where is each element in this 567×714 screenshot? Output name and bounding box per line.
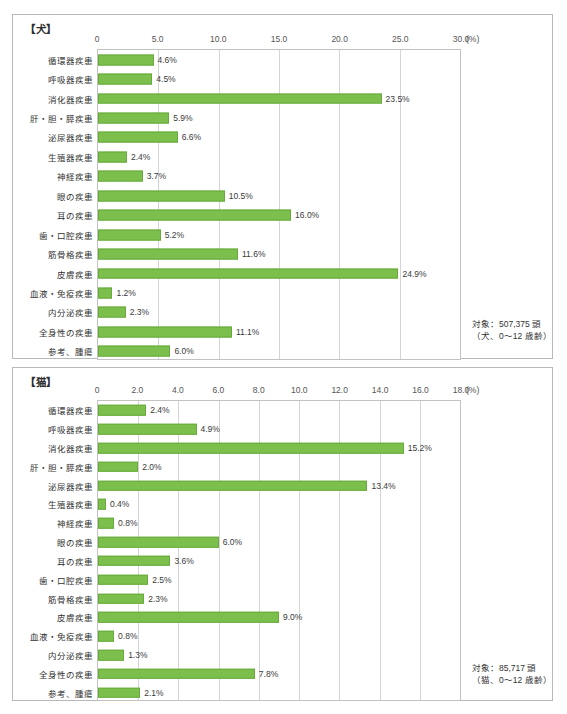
dog-bar-row: 肝・胆・膵疾患5.9%	[98, 108, 460, 127]
cat-bar-row: 皮膚疾患9.0%	[98, 608, 460, 627]
dog-bar-row: 呼吸器疾患4.5%	[98, 69, 460, 88]
dog-xtick-2: 10.0	[210, 34, 227, 44]
dog-bar-value-11: 24.9%	[402, 269, 426, 279]
cat-category-label-10: 筋骨格疾患	[48, 593, 93, 605]
dog-bar-8	[98, 210, 291, 221]
cat-bar-4	[98, 480, 367, 491]
dog-category-label-12: 血液・免疫疾患	[30, 287, 93, 299]
dog-xtick-4: 20.0	[331, 34, 348, 44]
dog-bar-14	[98, 326, 232, 337]
dog-bar-13	[98, 307, 126, 318]
dog-bar-value-0: 4.6%	[158, 55, 177, 65]
dog-bar-row: 生殖器疾患2.4%	[98, 147, 460, 166]
dog-category-label-7: 眼の疾患	[57, 190, 93, 202]
dog-xtick-5: 25.0	[392, 34, 409, 44]
cat-bar-6	[98, 518, 114, 529]
dog-bar-11	[98, 268, 398, 279]
cat-category-label-1: 呼吸器疾患	[48, 423, 93, 435]
dog-bar-value-10: 11.6%	[242, 249, 265, 259]
cat-bar-9	[98, 574, 148, 585]
dog-bar-4	[98, 132, 178, 143]
cat-gridline-9	[460, 401, 461, 700]
dog-bar-12	[98, 288, 112, 299]
dog-bar-value-13: 2.3%	[130, 307, 149, 317]
dog-category-label-15: 参考、腫瘍	[48, 345, 93, 357]
cat-bar-value-1: 4.9%	[201, 424, 220, 434]
cat-category-label-9: 歯・口腔疾患	[39, 574, 93, 586]
dog-axis-unit-label: (%)	[466, 34, 479, 44]
cat-bar-15	[98, 687, 140, 698]
dog-bar-1	[98, 74, 152, 85]
dog-bar-row: 参考、腫瘍6.0%	[98, 342, 460, 361]
dog-category-label-4: 泌尿器疾患	[48, 131, 93, 143]
dog-bar-9	[98, 229, 161, 240]
cat-bar-value-10: 2.3%	[148, 594, 167, 604]
cat-xtick-5: 10.0	[291, 385, 308, 395]
cat-bar-8	[98, 556, 170, 567]
cat-bar-row: 眼の疾患6.0%	[98, 533, 460, 552]
cat-xtick-0: 0	[95, 385, 100, 395]
dog-xtick-1: 5.0	[152, 34, 164, 44]
dog-bar-0	[98, 54, 154, 65]
cat-category-label-13: 内分泌疾患	[48, 649, 93, 661]
dog-bar-5	[98, 151, 127, 162]
dog-bar-value-4: 6.6%	[182, 132, 201, 142]
dog-bar-value-9: 5.2%	[165, 230, 184, 240]
dog-bar-row: 眼の疾患10.5%	[98, 186, 460, 205]
dog-category-label-11: 皮膚疾患	[57, 268, 93, 280]
cat-category-label-12: 血液・免疫疾患	[30, 630, 93, 642]
dog-bar-2	[98, 93, 382, 104]
dog-bar-value-12: 1.2%	[116, 288, 135, 298]
cat-category-label-0: 循環器疾患	[48, 404, 93, 416]
cat-bar-value-4: 13.4%	[371, 481, 395, 491]
dog-bar-row: 皮膚疾患24.9%	[98, 264, 460, 283]
cat-bar-row: 消化器疾患15.2%	[98, 439, 460, 458]
cat-category-label-2: 消化器疾患	[48, 442, 93, 454]
dog-sample-note: 対象：507,375 頭 （犬、0～12 歳齢）	[472, 318, 552, 343]
cat-bar-row: 内分泌疾患1.3%	[98, 646, 460, 665]
dog-category-label-1: 呼吸器疾患	[48, 73, 93, 85]
cat-bar-value-6: 0.8%	[118, 518, 137, 528]
dog-bar-value-3: 5.9%	[173, 113, 192, 123]
cat-bar-row: 循環器疾患2.4%	[98, 401, 460, 420]
cat-bar-value-8: 3.6%	[174, 556, 193, 566]
cat-bar-row: 耳の疾患3.6%	[98, 552, 460, 571]
dog-bar-3	[98, 113, 169, 124]
cat-chart-title: 【猫】	[25, 374, 57, 389]
cat-bar-value-12: 0.8%	[118, 631, 137, 641]
dog-bar-value-2: 23.5%	[386, 94, 410, 104]
dog-bar-value-5: 2.4%	[131, 152, 150, 162]
cat-xtick-2: 4.0	[172, 385, 184, 395]
cat-xtick-6: 12.0	[331, 385, 348, 395]
cat-bar-12	[98, 631, 114, 642]
cat-bar-3	[98, 462, 138, 473]
cat-bar-row: 血液・免疫疾患0.8%	[98, 627, 460, 646]
dog-bar-row: 神経疾患3.7%	[98, 167, 460, 186]
dog-bar-row: 血液・免疫疾患1.2%	[98, 283, 460, 302]
dog-chart-panel: 【犬】 05.010.015.020.025.030.0(%) 循環器疾患4.6…	[12, 14, 553, 359]
dog-category-label-3: 肝・胆・膵疾患	[30, 112, 93, 124]
cat-bar-7	[98, 537, 219, 548]
dog-bar-row: 内分泌疾患2.3%	[98, 303, 460, 322]
cat-category-label-3: 肝・胆・膵疾患	[30, 461, 93, 473]
cat-xtick-4: 8.0	[253, 385, 265, 395]
dog-chart-title: 【犬】	[25, 21, 57, 36]
cat-category-label-6: 神経疾患	[57, 517, 93, 529]
cat-bar-value-5: 0.4%	[110, 499, 129, 509]
dog-category-label-10: 筋骨格疾患	[48, 248, 93, 260]
cat-chart-area: 02.04.06.08.010.012.014.016.018.0(%) 循環器…	[97, 400, 461, 701]
dog-bar-row: 泌尿器疾患6.6%	[98, 128, 460, 147]
dog-category-label-9: 歯・口腔疾患	[39, 229, 93, 241]
cat-bar-1	[98, 424, 197, 435]
dog-chart-area: 05.010.015.020.025.030.0(%) 循環器疾患4.6%呼吸器…	[97, 49, 461, 360]
cat-bar-row: 呼吸器疾患4.9%	[98, 420, 460, 439]
cat-bar-value-9: 2.5%	[152, 575, 171, 585]
cat-xtick-3: 6.0	[212, 385, 224, 395]
dog-bar-rows: 循環器疾患4.6%呼吸器疾患4.5%消化器疾患23.5%肝・胆・膵疾患5.9%泌…	[98, 50, 460, 359]
dog-bar-value-1: 4.5%	[156, 74, 175, 84]
dog-xtick-0: 0	[95, 34, 100, 44]
cat-bar-5	[98, 499, 106, 510]
cat-axis-unit-label: (%)	[466, 385, 479, 395]
dog-bar-value-7: 10.5%	[229, 191, 253, 201]
cat-bar-rows: 循環器疾患2.4%呼吸器疾患4.9%消化器疾患15.2%肝・胆・膵疾患2.0%泌…	[98, 401, 460, 700]
